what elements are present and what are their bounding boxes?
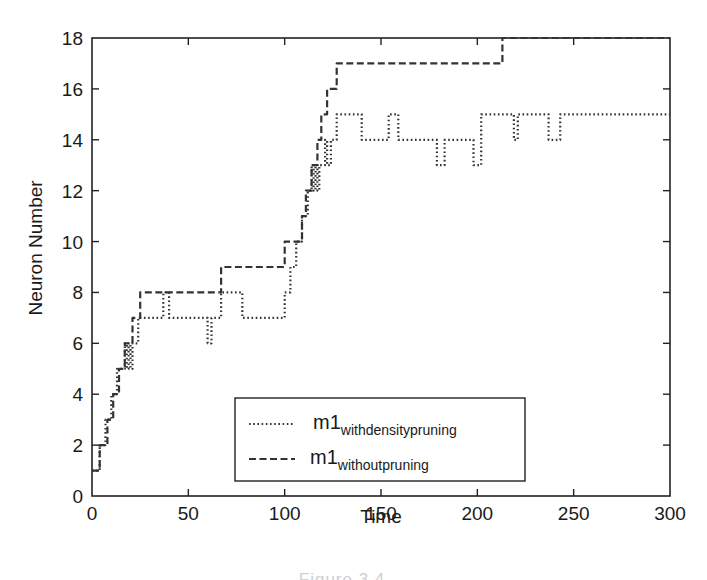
y-tick-label: 12 [62,181,83,202]
y-tick-label: 18 [62,28,83,49]
x-tick-label: 250 [558,503,590,524]
x-tick-label: 100 [269,503,301,524]
y-tick-label: 10 [62,232,83,253]
y-tick-label: 14 [62,130,84,151]
y-tick-label: 2 [72,435,83,456]
y-tick-label: 8 [72,282,83,303]
y-tick-label: 0 [72,486,83,507]
x-tick-label: 300 [654,503,686,524]
y-tick-label: 4 [72,384,83,405]
y-tick-label: 6 [72,333,83,354]
legend: m1withdensitypruning m1withoutpruning [235,398,525,481]
y-axis-label: Neuron Number [25,180,46,316]
x-axis-label: Time [360,506,402,527]
x-tick-label: 0 [87,503,98,524]
x-tick-label: 50 [178,503,199,524]
y-tick-label: 16 [62,79,83,100]
figure-caption-partial: Figure 3.4 ... [0,568,707,580]
x-tick-label: 200 [461,503,493,524]
